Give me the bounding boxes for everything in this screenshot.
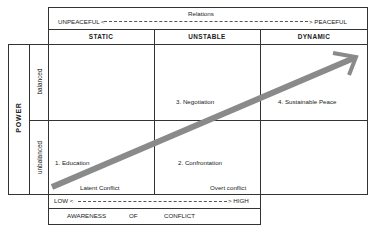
progression-arrow-icon <box>0 0 375 235</box>
